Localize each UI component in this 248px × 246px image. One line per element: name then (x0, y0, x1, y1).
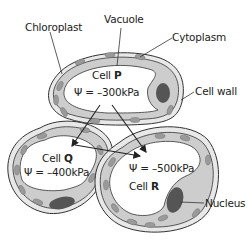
label-chloroplast: Chloroplast (25, 22, 82, 33)
cell-q-potential: Ψ = –400kPa (24, 167, 89, 178)
label-cytoplasm: Cytoplasm (172, 32, 226, 43)
cell-q-title: Cell Q (42, 153, 73, 164)
label-cell-wall: Cell wall (195, 86, 237, 97)
label-nucleus: Nucleus (205, 198, 245, 209)
cell-r-title: Cell R (129, 181, 159, 192)
cell-p-title: Cell P (92, 70, 121, 81)
nucleus-p (156, 83, 170, 103)
cell-p-potential: Ψ = –300kPa (74, 87, 139, 98)
label-vacuole: Vacuole (104, 14, 144, 25)
cell-r-potential: Ψ = –500kPa (129, 163, 194, 174)
